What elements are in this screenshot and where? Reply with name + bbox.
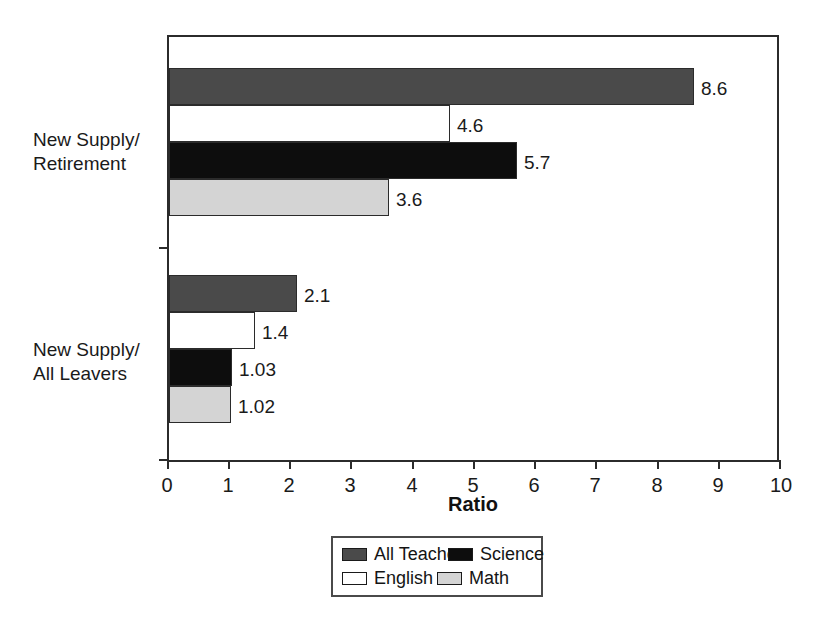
plot-area: 8.6 4.6 5.7 3.6 2.1 1.4 1.03 1.02 [169,37,779,460]
x-tick-3 [350,460,352,469]
legend-swatch-math [437,572,462,585]
bar-value-label-english-all-leavers: 1.4 [262,323,288,342]
bar-value-label-science-all-leavers: 1.03 [239,360,276,379]
bar-value-label-math-retirement: 3.6 [396,190,422,209]
x-tick-5 [473,460,475,469]
bar-english-all-leavers[interactable] [169,312,255,349]
legend-item-english[interactable]: English [342,568,437,588]
legend-item-all-teachers[interactable]: All Teachers [342,544,448,564]
bar-chart-figure: 8.6 4.6 5.7 3.6 2.1 1.4 1.03 1.02 New Su… [0,0,823,637]
x-tick-2 [289,460,291,469]
bar-value-label-science-retirement: 5.7 [524,153,550,172]
bar-value-label-all-teachers-retirement: 8.6 [701,79,727,98]
legend-label-science: Science [480,544,544,564]
bar-science-all-leavers[interactable] [169,349,232,386]
x-tick-8 [657,460,659,469]
category-label-new-supply-all-leavers: New Supply/ All Leavers [33,338,163,386]
x-tick-9 [718,460,720,469]
bar-all-teachers-retirement[interactable] [169,68,694,105]
x-axis-title: Ratio [167,493,779,516]
chart-legend: All Teachers Science English Math [331,536,543,597]
bar-math-retirement[interactable] [169,179,389,216]
legend-swatch-science [448,548,473,561]
x-tick-6 [534,460,536,469]
bar-science-retirement[interactable] [169,142,517,179]
x-tick-4 [412,460,414,469]
legend-item-science[interactable]: Science [448,544,544,564]
category-label-new-supply-retirement: New Supply/ Retirement [33,128,163,176]
legend-swatch-english [342,572,367,585]
bar-value-label-math-all-leavers: 1.02 [238,397,275,416]
legend-row: All Teachers Science [342,544,532,564]
legend-label-english: English [374,568,433,588]
bar-english-retirement[interactable] [169,105,450,142]
legend-label-math: Math [469,568,509,588]
legend-row: English Math [342,568,532,588]
x-tick-7 [595,460,597,469]
category-separator-tick [159,247,169,249]
legend-swatch-all-teachers [342,548,367,561]
x-tick-10 [779,460,781,469]
legend-item-math[interactable]: Math [437,568,532,588]
bar-value-label-all-teachers-all-leavers: 2.1 [304,286,330,305]
x-tick-1 [228,460,230,469]
bar-value-label-english-retirement: 4.6 [457,116,483,135]
x-tick-0 [167,460,169,469]
bar-math-all-leavers[interactable] [169,386,231,423]
cropped-caption-strip [0,612,823,637]
bar-all-teachers-all-leavers[interactable] [169,275,297,312]
